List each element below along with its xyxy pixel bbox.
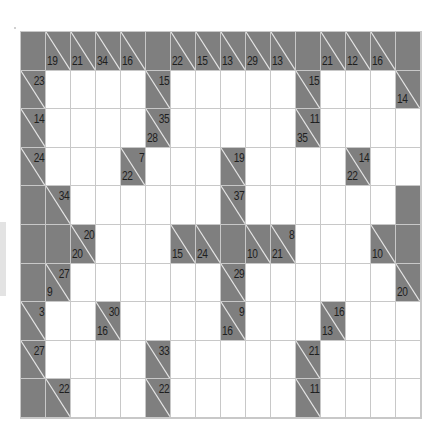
answer-cell[interactable] [246,148,271,187]
answer-cell[interactable] [96,264,121,303]
answer-cell[interactable] [171,264,196,303]
answer-cell[interactable] [396,148,421,187]
answer-cell[interactable] [96,148,121,187]
answer-cell[interactable] [346,225,371,264]
answer-cell[interactable] [371,148,396,187]
answer-cell[interactable] [71,109,96,148]
answer-cell[interactable] [371,302,396,341]
answer-cell[interactable] [121,341,146,380]
answer-cell[interactable] [271,148,296,187]
answer-cell[interactable] [271,379,296,418]
answer-cell[interactable] [71,264,96,303]
answer-cell[interactable] [396,379,421,418]
answer-cell[interactable] [321,379,346,418]
answer-cell[interactable] [246,109,271,148]
answer-cell[interactable] [371,186,396,225]
answer-cell[interactable] [171,71,196,110]
answer-cell[interactable] [71,302,96,341]
answer-cell[interactable] [146,302,171,341]
answer-cell[interactable] [121,225,146,264]
answer-cell[interactable] [396,302,421,341]
answer-cell[interactable] [346,341,371,380]
answer-cell[interactable] [96,186,121,225]
answer-cell[interactable] [121,186,146,225]
answer-cell[interactable] [346,186,371,225]
answer-cell[interactable] [46,148,71,187]
answer-cell[interactable] [171,341,196,380]
answer-cell[interactable] [196,264,221,303]
answer-cell[interactable] [246,71,271,110]
answer-cell[interactable] [146,225,171,264]
answer-cell[interactable] [296,225,321,264]
answer-cell[interactable] [246,186,271,225]
answer-cell[interactable] [196,341,221,380]
answer-cell[interactable] [271,264,296,303]
answer-cell[interactable] [271,341,296,380]
answer-cell[interactable] [121,379,146,418]
answer-cell[interactable] [271,302,296,341]
answer-cell[interactable] [296,302,321,341]
answer-cell[interactable] [346,264,371,303]
answer-cell[interactable] [171,302,196,341]
answer-cell[interactable] [221,109,246,148]
answer-cell[interactable] [271,109,296,148]
answer-cell[interactable] [221,379,246,418]
answer-cell[interactable] [121,109,146,148]
answer-cell[interactable] [246,302,271,341]
answer-cell[interactable] [296,264,321,303]
answer-cell[interactable] [46,109,71,148]
answer-cell[interactable] [196,71,221,110]
answer-cell[interactable] [346,109,371,148]
answer-cell[interactable] [46,71,71,110]
answer-cell[interactable] [371,379,396,418]
answer-cell[interactable] [71,186,96,225]
answer-cell[interactable] [246,264,271,303]
answer-cell[interactable] [121,71,146,110]
answer-cell[interactable] [196,302,221,341]
answer-cell[interactable] [296,186,321,225]
answer-cell[interactable] [171,109,196,148]
answer-cell[interactable] [271,71,296,110]
answer-cell[interactable] [71,71,96,110]
answer-cell[interactable] [246,379,271,418]
answer-cell[interactable] [146,186,171,225]
answer-cell[interactable] [371,71,396,110]
answer-cell[interactable] [146,148,171,187]
answer-cell[interactable] [146,264,171,303]
answer-cell[interactable] [96,225,121,264]
answer-cell[interactable] [346,379,371,418]
answer-cell[interactable] [96,71,121,110]
answer-cell[interactable] [196,186,221,225]
answer-cell[interactable] [321,341,346,380]
answer-cell[interactable] [321,109,346,148]
answer-cell[interactable] [246,341,271,380]
answer-cell[interactable] [396,341,421,380]
answer-cell[interactable] [196,148,221,187]
answer-cell[interactable] [221,341,246,380]
answer-cell[interactable] [321,264,346,303]
answer-cell[interactable] [46,302,71,341]
answer-cell[interactable] [321,148,346,187]
answer-cell[interactable] [171,379,196,418]
answer-cell[interactable] [296,148,321,187]
answer-cell[interactable] [96,109,121,148]
answer-cell[interactable] [371,109,396,148]
answer-cell[interactable] [346,71,371,110]
answer-cell[interactable] [71,148,96,187]
answer-cell[interactable] [196,379,221,418]
answer-cell[interactable] [346,302,371,341]
answer-cell[interactable] [196,109,221,148]
answer-cell[interactable] [221,71,246,110]
answer-cell[interactable] [96,379,121,418]
answer-cell[interactable] [171,186,196,225]
answer-cell[interactable] [121,264,146,303]
answer-cell[interactable] [121,302,146,341]
answer-cell[interactable] [71,379,96,418]
answer-cell[interactable] [396,109,421,148]
answer-cell[interactable] [171,148,196,187]
answer-cell[interactable] [321,71,346,110]
answer-cell[interactable] [321,186,346,225]
answer-cell[interactable] [321,225,346,264]
answer-cell[interactable] [96,341,121,380]
answer-cell[interactable] [371,264,396,303]
